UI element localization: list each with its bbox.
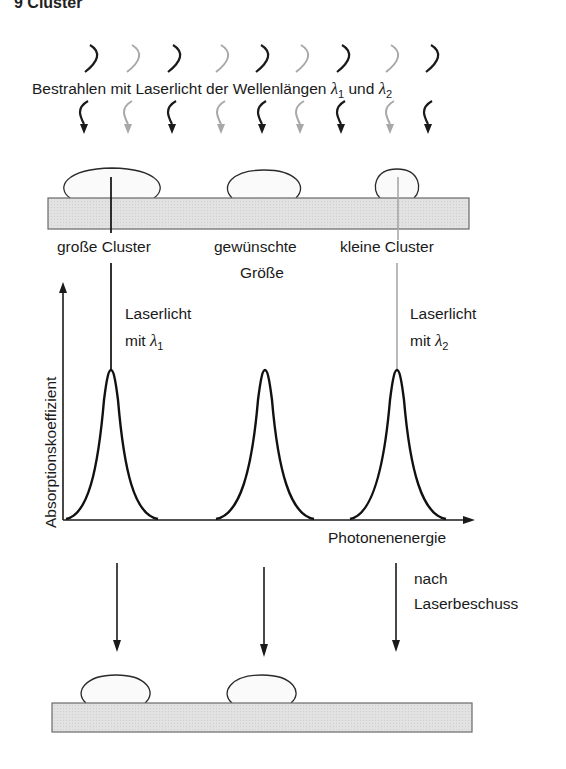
after-laser-label-2: Laserbeschuss <box>414 595 519 612</box>
photon-arrow-icon <box>258 101 266 134</box>
label-large-clusters: große Cluster <box>57 238 151 255</box>
photon-arrow-icon <box>424 101 432 134</box>
photon-wave-icon <box>85 45 97 72</box>
label-desired-size-2: Größe <box>240 264 284 281</box>
photon-wave-icon <box>216 45 228 72</box>
photon-wave-icon <box>337 45 349 72</box>
photon-arrow-icon <box>337 101 345 134</box>
label-desired-size-1: gewünschte <box>214 238 297 255</box>
cluster-size-selection-diagram: 9 Cluster Bestrahlen mit Laserlicht der … <box>0 0 566 769</box>
label-small-clusters: kleine Cluster <box>340 238 434 255</box>
photon-wave-icon <box>256 45 268 72</box>
x-axis-arrow-icon <box>463 516 475 524</box>
photon-arrows-down <box>80 101 432 134</box>
photon-arrow-icon <box>296 101 304 134</box>
photon-wave-icon <box>296 45 308 72</box>
arrow-head-icon <box>392 640 400 652</box>
photon-wave-icon <box>168 45 180 72</box>
photon-wave-icon <box>426 45 438 72</box>
photon-wave-icon <box>386 45 398 72</box>
laser-lambda2-label-1: Laserlicht <box>410 305 477 322</box>
cluster-medium <box>227 170 300 198</box>
arrow-head-icon <box>260 644 268 657</box>
section-header: 9 Cluster <box>14 0 82 11</box>
y-axis-arrow-icon <box>59 282 67 293</box>
photon-arrow-icon <box>124 101 132 134</box>
substrate-bottom <box>52 703 472 732</box>
photon-wave-icon <box>127 45 139 72</box>
y-axis-label: Absorptionskoeffizient <box>42 376 59 528</box>
cluster-large <box>64 168 160 198</box>
absorption-peak-small <box>350 370 446 519</box>
incoming-photon-waves <box>85 45 438 72</box>
laser-lambda1-label-2: mit λ1 <box>125 331 163 352</box>
photon-arrow-icon <box>217 101 225 134</box>
arrow-head-icon <box>113 640 121 652</box>
cluster-remaining-2 <box>227 675 296 703</box>
laser-lambda1-label-1: Laserlicht <box>125 305 192 322</box>
irradiation-caption: Bestrahlen mit Laserlicht der Wellenläng… <box>32 79 392 100</box>
x-axis-label: Photonenenergie <box>328 529 446 546</box>
cluster-small <box>375 169 418 198</box>
substrate-after <box>52 675 472 732</box>
absorption-peak-large <box>66 370 158 519</box>
laser-lambda2-label-2: mit λ2 <box>410 331 448 352</box>
photon-arrow-icon <box>386 101 394 134</box>
absorption-peak-desired <box>216 370 314 519</box>
photon-arrow-icon <box>80 101 88 134</box>
cluster-remaining-1 <box>81 675 150 703</box>
photon-arrow-icon <box>168 101 176 134</box>
after-laser-label-1: nach <box>414 570 448 587</box>
